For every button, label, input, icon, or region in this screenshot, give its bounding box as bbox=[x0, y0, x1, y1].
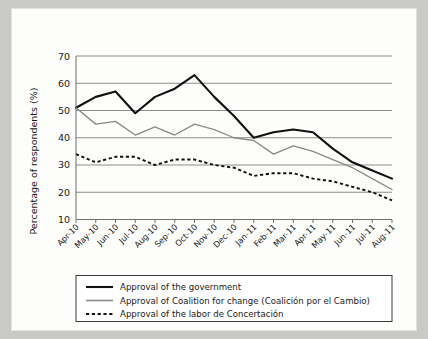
series-line-approval-of-coalition-for-change bbox=[76, 108, 392, 190]
x-axis-ticks bbox=[76, 220, 392, 224]
chart-figure: Percentage of respondents (%) 70 60 50 4… bbox=[12, 9, 416, 330]
y-tick-60: 60 bbox=[58, 78, 70, 89]
x-tick-label-jun-11: Jun-11 bbox=[331, 222, 357, 248]
y-tick-30: 30 bbox=[58, 159, 70, 170]
chart-card: Percentage of respondents (%) 70 60 50 4… bbox=[12, 9, 416, 330]
line-chart-svg: Percentage of respondents (%) 70 60 50 4… bbox=[12, 9, 416, 330]
y-tick-40: 40 bbox=[58, 132, 70, 143]
legend-label-government: Approval of the government bbox=[120, 282, 242, 292]
y-axis-title: Percentage of respondents (%) bbox=[28, 87, 39, 234]
y-axis-ticks: 70 60 50 40 30 20 10 bbox=[58, 51, 70, 225]
x-tick-label-jun-10: Jun-10 bbox=[94, 222, 120, 248]
legend: Approval of the government Approval of C… bbox=[76, 276, 392, 322]
x-axis-labels: Apr-10May-10Jun-10Jul-10Aug-10Sep-10Oct-… bbox=[55, 222, 397, 250]
y-tick-50: 50 bbox=[58, 105, 70, 116]
y-tick-70: 70 bbox=[58, 51, 70, 62]
y-tick-20: 20 bbox=[58, 187, 70, 198]
series-line-approval-of-the-labor-de-concertacion bbox=[76, 154, 392, 200]
legend-label-coalition: Approval of Coalition for change (Coalic… bbox=[120, 296, 370, 306]
y-tick-10: 10 bbox=[58, 214, 70, 225]
legend-label-concertacion: Approval of the labor de Concertación bbox=[120, 309, 284, 319]
